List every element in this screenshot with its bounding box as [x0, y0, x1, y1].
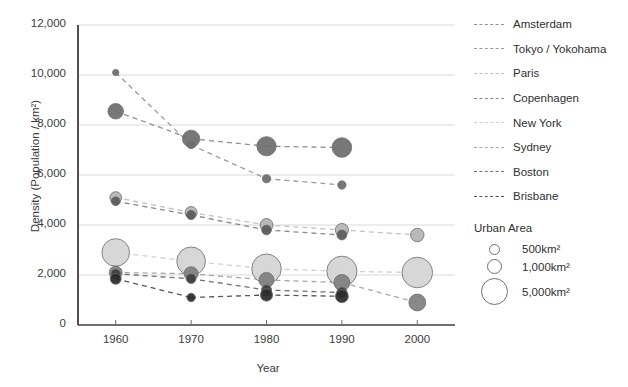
size-legend-label: 5,000km² — [522, 286, 570, 298]
data-bubble — [262, 225, 272, 235]
series-connector-line — [342, 283, 417, 303]
series-connector-line — [191, 295, 266, 298]
size-legend: Urban Area 500km²1,000km²5,000km² — [474, 222, 570, 309]
x-tick-label: 1970 — [161, 333, 221, 345]
size-legend-item: 1,000km² — [474, 259, 570, 274]
data-bubble — [110, 273, 121, 284]
legend-item-boston[interactable]: Boston — [474, 160, 606, 185]
series-connector-line — [267, 295, 342, 296]
series-connector-line — [191, 279, 266, 290]
series-connector-line — [116, 198, 191, 213]
data-bubble — [108, 104, 123, 119]
legend-item-amsterdam[interactable]: Amsterdam — [474, 12, 606, 37]
series-connector-line — [267, 146, 342, 147]
series-legend: AmsterdamTokyo / YokohamaParisCopenhagen… — [474, 12, 606, 209]
series-connector-line — [267, 230, 342, 235]
data-bubble — [260, 289, 272, 301]
data-bubble — [338, 181, 346, 189]
legend-item-brisbane[interactable]: Brisbane — [474, 184, 606, 209]
series-connector-line — [191, 145, 266, 179]
series-connector-line — [267, 179, 342, 185]
data-bubble — [335, 290, 348, 303]
legend-item-copenhagen[interactable]: Copenhagen — [474, 86, 606, 111]
size-legend-title: Urban Area — [474, 222, 570, 234]
series-connector-line — [116, 201, 191, 215]
data-bubble — [186, 210, 195, 219]
legend-item-sydney[interactable]: Sydney — [474, 135, 606, 160]
bubble-chart-figure: 02,0004,0006,0008,00010,00012,000 196019… — [0, 0, 628, 387]
data-bubble — [102, 239, 130, 267]
y-tick-label: 12,000 — [8, 18, 66, 30]
legend-line-swatch — [474, 122, 504, 123]
x-tick-label: 2000 — [387, 333, 447, 345]
size-legend-label: 1,000km² — [522, 261, 570, 273]
data-bubble — [257, 137, 276, 156]
series-connector-line — [116, 73, 191, 146]
legend-item-label: Tokyo / Yokohama — [513, 43, 606, 55]
x-axis-title: Year — [78, 362, 458, 374]
data-bubble — [411, 228, 424, 241]
legend-item-label: Boston — [513, 166, 549, 178]
legend-line-swatch — [474, 24, 504, 25]
size-legend-item: 500km² — [474, 243, 570, 255]
data-bubble — [262, 175, 270, 183]
series-connector-line — [116, 273, 191, 274]
size-legend-label: 500km² — [522, 243, 560, 255]
data-bubble — [402, 257, 433, 288]
data-bubble — [111, 197, 120, 206]
series-connector-line — [342, 230, 417, 235]
legend-item-label: Sydney — [513, 141, 551, 153]
legend-line-swatch — [474, 147, 504, 148]
legend-line-swatch — [474, 73, 504, 74]
legend-line-swatch — [474, 171, 504, 172]
size-legend-circle — [487, 259, 502, 274]
x-tick-label: 1990 — [312, 333, 372, 345]
series-connector-line — [116, 279, 191, 298]
y-axis-title: Density (Population / km²) — [29, 36, 41, 296]
x-tick-label: 1980 — [237, 333, 297, 345]
series-connector-line — [267, 225, 342, 230]
legend-line-swatch — [474, 48, 504, 49]
data-bubble — [337, 230, 347, 240]
legend-item-new-york[interactable]: New York — [474, 110, 606, 135]
size-legend-circle — [481, 278, 508, 305]
legend-item-label: Copenhagen — [513, 92, 579, 104]
data-bubble — [186, 274, 196, 284]
x-tick-label: 1960 — [86, 333, 146, 345]
legend-line-swatch — [474, 98, 504, 99]
legend-item-label: Brisbane — [513, 190, 558, 202]
legend-line-swatch — [474, 196, 504, 197]
legend-item-tokyo-yokohama[interactable]: Tokyo / Yokohama — [474, 37, 606, 62]
size-legend-circle — [489, 244, 500, 255]
series-connector-line — [267, 290, 342, 293]
legend-item-label: Paris — [513, 67, 539, 79]
data-bubble — [113, 69, 119, 75]
legend-item-label: Amsterdam — [513, 18, 572, 30]
size-legend-item: 5,000km² — [474, 278, 570, 305]
data-bubble — [409, 294, 426, 311]
data-bubble — [187, 141, 194, 148]
legend-item-paris[interactable]: Paris — [474, 61, 606, 86]
data-bubble — [187, 293, 195, 301]
y-tick-label: 0 — [8, 318, 66, 330]
series-connector-line — [191, 139, 266, 147]
legend-item-label: New York — [513, 117, 562, 129]
data-bubble — [332, 138, 352, 158]
